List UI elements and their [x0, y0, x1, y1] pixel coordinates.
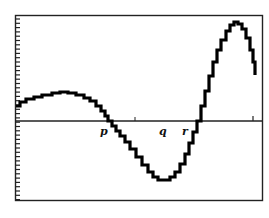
label-q: q	[159, 126, 167, 137]
function-curve	[16, 22, 255, 180]
label-r: r	[182, 126, 188, 137]
graph-frame	[16, 16, 263, 201]
function-graph	[0, 0, 269, 218]
label-p: p	[100, 126, 108, 137]
